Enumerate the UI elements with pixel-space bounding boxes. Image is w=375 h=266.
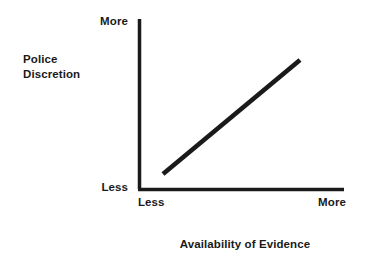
- x-axis-tick-high: More: [246, 196, 346, 209]
- y-axis-tick-high: More: [0, 15, 128, 28]
- x-axis-tick-low: Less: [138, 196, 165, 209]
- chart-plot-area: [0, 0, 375, 266]
- trend-line: [163, 60, 300, 174]
- y-axis-title-line-2: Discretion: [23, 67, 80, 82]
- y-axis-tick-low: Less: [0, 181, 128, 194]
- y-axis-title-line-1: Police: [23, 52, 80, 67]
- chart-figure: More Less Police Discretion Less More Av…: [0, 0, 375, 266]
- x-axis-title: Availability of Evidence: [145, 238, 345, 251]
- y-axis-title: Police Discretion: [23, 52, 80, 81]
